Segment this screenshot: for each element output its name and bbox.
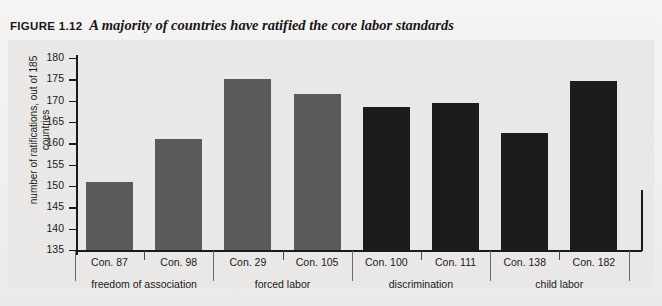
group-label: forced labor xyxy=(213,278,351,290)
y-tick-mark xyxy=(69,165,76,166)
bar xyxy=(224,79,271,250)
category-label: Con. 87 xyxy=(75,256,145,268)
y-tick-label: 160 xyxy=(30,136,64,148)
y-tick-label: 170 xyxy=(30,94,64,106)
x-axis-line xyxy=(76,250,642,252)
y-tick-label: 150 xyxy=(30,179,64,191)
category-label: Con. 138 xyxy=(490,256,560,268)
plot-right-edge xyxy=(641,190,643,251)
group-separator-tick xyxy=(213,251,214,281)
y-tick-label: 180 xyxy=(30,51,64,63)
category-label: Con. 100 xyxy=(351,256,421,268)
y-tick-label: 135 xyxy=(30,243,64,255)
y-tick-label: 175 xyxy=(30,72,64,84)
bar xyxy=(570,81,617,250)
figure-caption: FIGURE 1.12A majority of countries have … xyxy=(10,16,650,34)
bar-chart-plot: number of ratifications, out of 185 coun… xyxy=(8,40,654,288)
y-tick-mark xyxy=(69,186,76,187)
y-tick-label: 145 xyxy=(30,200,64,212)
group-label: child labor xyxy=(490,278,628,290)
y-tick-label: 155 xyxy=(30,158,64,170)
group-label: discrimination xyxy=(352,278,490,290)
group-separator-tick xyxy=(629,251,630,281)
category-label: Con. 98 xyxy=(144,256,214,268)
category-label: Con. 105 xyxy=(282,256,352,268)
y-tick-mark xyxy=(69,122,76,123)
bar xyxy=(155,139,202,250)
bar xyxy=(432,103,479,250)
category-label: Con. 182 xyxy=(559,256,629,268)
bar xyxy=(294,94,341,250)
y-tick-label: 165 xyxy=(30,115,64,127)
y-tick-mark xyxy=(69,229,76,230)
figure-number: FIGURE 1.12 xyxy=(10,20,82,32)
y-axis-line xyxy=(76,55,78,255)
y-tick-mark xyxy=(69,79,76,80)
figure-title: A majority of countries have ratified th… xyxy=(89,17,454,33)
bar xyxy=(363,107,410,250)
category-label: Con. 29 xyxy=(213,256,283,268)
y-tick-label: 140 xyxy=(30,222,64,234)
group-separator-tick xyxy=(75,251,76,281)
y-tick-mark xyxy=(69,207,76,208)
group-separator-tick xyxy=(352,251,353,281)
bar xyxy=(501,133,548,250)
chart-panel: number of ratifications, out of 185 coun… xyxy=(8,40,654,288)
group-separator-tick xyxy=(490,251,491,281)
bar xyxy=(86,182,133,250)
y-tick-mark xyxy=(69,101,76,102)
y-tick-mark xyxy=(69,143,76,144)
group-label: freedom of association xyxy=(75,278,213,290)
y-tick-mark xyxy=(69,58,76,59)
category-label: Con. 111 xyxy=(421,256,491,268)
